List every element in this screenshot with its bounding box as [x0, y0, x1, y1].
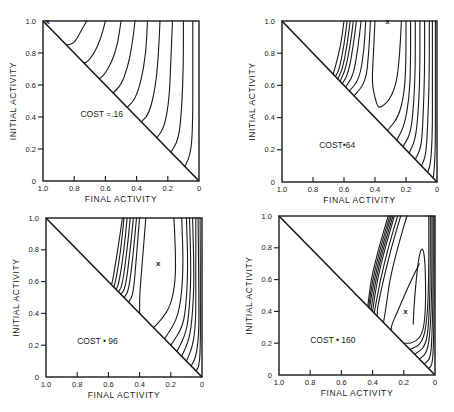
contour-line — [66, 21, 86, 45]
contour-line — [129, 218, 140, 302]
x-axis-label: FINAL ACTIVITY — [323, 195, 395, 205]
contour-line — [171, 21, 184, 152]
panel-cost-16: 1.00.80.60.40.2000.20.40.60.81.0FINAL AC… — [8, 17, 201, 205]
y-axis-label: INITIAL ACTIVITY — [244, 256, 254, 334]
x-tick-label: 0 — [197, 184, 201, 193]
contour-line — [99, 21, 121, 79]
contour-line — [182, 218, 194, 356]
x-tick-label: 0.4 — [134, 380, 144, 389]
y-tick-label: 0.8 — [265, 49, 275, 58]
optimum-x-marker: x — [45, 17, 50, 26]
contour-line — [140, 218, 146, 313]
x-tick-label: 0.4 — [367, 378, 377, 387]
x-tick-label: 0.4 — [370, 185, 380, 194]
x-tick-label: 0.6 — [100, 184, 110, 193]
y-tick-label: 1.0 — [265, 17, 275, 26]
x-axis-label: FINAL ACTIVITY — [85, 194, 157, 204]
x-tick-label: 0.6 — [103, 380, 113, 389]
x-tick-label: 0.4 — [131, 184, 141, 193]
y-tick-label: 1.0 — [29, 214, 39, 223]
contour-lines — [368, 216, 434, 369]
y-tick-label: 0.4 — [26, 113, 36, 122]
y-tick-label: 0.6 — [29, 277, 39, 286]
contour-line — [397, 21, 411, 140]
contour-line — [372, 21, 401, 107]
y-tick-label: 0.4 — [265, 113, 275, 122]
y-tick-label: 0.8 — [26, 49, 36, 58]
y-tick-label: 0.2 — [26, 145, 36, 154]
optimum-x-marker: x — [156, 259, 161, 268]
y-axis-label: INITIAL ACTIVITY — [247, 62, 257, 140]
x-tick-label: 0.2 — [401, 185, 411, 194]
y-tick-label: 0.4 — [29, 309, 39, 318]
contour-line — [154, 218, 176, 328]
x-tick-label: 0.8 — [72, 380, 82, 389]
diagonal-boundary-line — [279, 216, 435, 375]
contour-lines — [66, 21, 192, 167]
y-tick-label: 0.2 — [265, 145, 275, 154]
contour-line — [186, 218, 195, 361]
x-tick-label: 1.0 — [277, 185, 287, 194]
optimum-x-marker: x — [403, 307, 408, 316]
y-tick-label: 0.6 — [262, 275, 272, 284]
y-tick-label: 0.4 — [262, 307, 272, 316]
y-axis-label: INITIAL ACTIVITY — [11, 258, 21, 336]
cost-annotation: COST•64 — [319, 140, 355, 150]
x-tick-label: 1.0 — [38, 184, 48, 193]
contour-line — [116, 218, 127, 290]
contour-lines — [333, 21, 435, 178]
contour-line — [84, 21, 106, 63]
contour-line — [113, 21, 135, 93]
contour-line — [165, 218, 183, 339]
x-tick-label: 0.2 — [399, 378, 409, 387]
panel-cost-96: 1.00.80.60.40.2000.20.40.60.81.0FINAL AC… — [11, 214, 204, 401]
y-tick-label: 0.2 — [262, 339, 272, 348]
panel-cost-64: 1.00.80.60.40.2000.20.40.60.81.0FINAL AC… — [247, 17, 439, 206]
cost-annotation: COST • 160 — [310, 335, 356, 345]
x-tick-label: 0 — [433, 378, 437, 387]
x-tick-label: 0 — [435, 185, 439, 194]
panel-cost-160: 1.00.80.60.40.2000.20.40.60.81.0FINAL AC… — [244, 212, 437, 399]
cost-annotation: COST =.16 — [80, 109, 123, 119]
y-tick-label: 0.2 — [29, 341, 39, 350]
contour-line — [127, 21, 147, 107]
contour-line — [340, 21, 353, 81]
x-tick-label: 1.0 — [274, 378, 284, 387]
contour-line — [141, 21, 160, 122]
optimum-x-marker: x — [385, 17, 390, 26]
x-tick-label: 0.8 — [69, 184, 79, 193]
y-axis-label: INITIAL ACTIVITY — [8, 62, 18, 140]
y-tick-label: 0 — [268, 371, 272, 380]
x-axis-label: FINAL ACTIVITY — [321, 388, 393, 398]
contour-line — [404, 249, 426, 343]
y-tick-label: 1.0 — [26, 17, 36, 26]
x-axis-label: FINAL ACTIVITY — [88, 390, 160, 400]
x-tick-label: 0.8 — [305, 378, 315, 387]
x-tick-label: 0 — [200, 380, 204, 389]
figure-contour-grid: 1.00.80.60.40.2000.20.40.60.81.0FINAL AC… — [0, 0, 454, 412]
y-tick-label: 0.8 — [29, 245, 39, 254]
contour-line — [422, 21, 430, 166]
y-tick-label: 0 — [32, 177, 36, 186]
y-tick-label: 0.6 — [265, 81, 275, 90]
y-tick-label: 0 — [271, 178, 275, 187]
x-tick-label: 0.2 — [163, 184, 173, 193]
figure-canvas: 1.00.80.60.40.2000.20.40.60.81.0FINAL AC… — [0, 0, 454, 412]
y-tick-label: 0.8 — [262, 243, 272, 252]
contour-lines — [112, 218, 201, 371]
contour-line — [433, 21, 435, 178]
x-tick-label: 0.8 — [308, 185, 318, 194]
cost-annotation: COST • 96 — [77, 336, 118, 346]
x-tick-label: 0.6 — [339, 185, 349, 194]
contour-line — [114, 218, 124, 287]
contour-line — [185, 21, 193, 167]
x-tick-label: 1.0 — [41, 380, 51, 389]
y-tick-label: 0.6 — [26, 81, 36, 90]
x-tick-label: 0.6 — [336, 378, 346, 387]
y-tick-label: 0 — [35, 373, 39, 382]
x-tick-label: 0.2 — [166, 380, 176, 389]
y-tick-label: 1.0 — [262, 212, 272, 221]
